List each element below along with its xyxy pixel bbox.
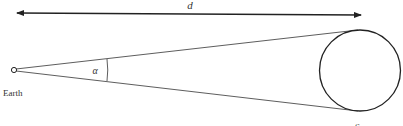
angle-label: α: [92, 65, 98, 76]
earth-icon: [11, 67, 16, 72]
sun-icon: [320, 30, 401, 111]
earth-label: Earth: [3, 88, 23, 98]
distance-label: d: [187, 0, 193, 11]
upper-tangent-line: [16, 30, 358, 69]
earth-sun-diagram: d α Earth Sun: [0, 0, 403, 126]
distance-arrow: [17, 13, 361, 15]
lower-tangent-line: [16, 71, 358, 111]
angle-arc: [107, 59, 108, 81]
sun-label: Sun: [355, 122, 370, 126]
diagram-canvas: d α Earth Sun: [0, 0, 403, 126]
